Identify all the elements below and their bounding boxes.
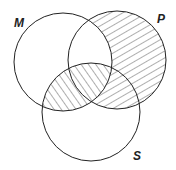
venn-diagram: M P S: [0, 0, 176, 170]
label-p: P: [157, 12, 166, 26]
label-s: S: [133, 149, 141, 163]
label-m: M: [14, 16, 25, 30]
